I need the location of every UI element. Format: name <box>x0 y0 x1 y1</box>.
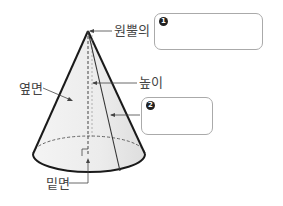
apex-label: 원뿔의 <box>114 24 150 37</box>
lateral-face-label: 옆면 <box>19 82 43 95</box>
cone-lateral-surface <box>33 31 145 172</box>
height-label: 높이 <box>139 76 163 89</box>
number-badge-2: 2 <box>146 101 155 110</box>
answer-box-2[interactable]: 2 <box>141 97 213 135</box>
number-badge-1: 1 <box>159 17 168 26</box>
answer-box-1[interactable]: 1 <box>154 13 263 50</box>
base-label: 밑면 <box>46 177 70 190</box>
